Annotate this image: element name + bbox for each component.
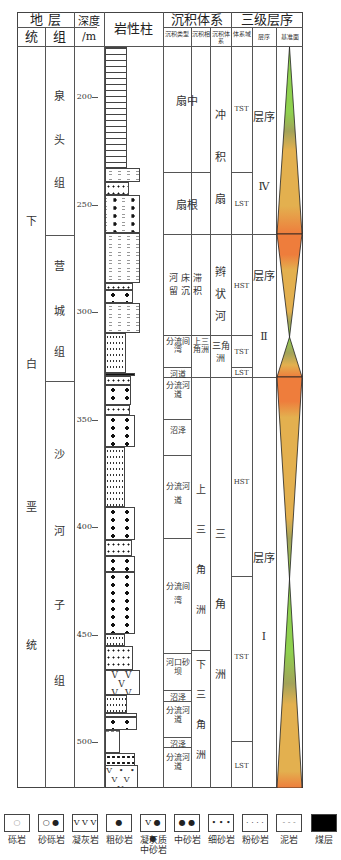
legend-coal-seam: 煤层 (308, 814, 340, 845)
litho-conglomerate (105, 233, 140, 283)
sequence-IV-label: 层序 (252, 100, 276, 136)
litho-coarse-sandstone (105, 290, 133, 303)
depth-label-350: 350 (66, 415, 92, 424)
facies-lower-delta: 下三角洲 (191, 650, 210, 770)
series-char-4: 统 (17, 636, 45, 652)
col-line-system (231, 12, 232, 788)
series-char-2: 白 (17, 355, 45, 371)
tract-divider (231, 741, 252, 742)
sequence-I-label: 层序 (252, 535, 276, 583)
tract-divider (231, 576, 252, 577)
system-delta: 三角洲 (210, 340, 231, 364)
legend-symbol-fine-sandstone: • • • (208, 814, 234, 832)
legend-tuffaceous-medium-sandstone: V ● ● 凝灰质中砂岩 (137, 814, 169, 855)
legend-fine-sandstone: • • • 细砂岩 (205, 814, 237, 845)
header-depth-unit: /m (74, 30, 104, 44)
legend-symbol-conglomerate: ○ (4, 814, 30, 832)
litho-coarse-sandstone (105, 556, 135, 572)
litho-fine-sandstone (105, 540, 132, 556)
facies-upper-delta: 上三角洲 (191, 470, 210, 630)
sed-type-swamp: 沼泽 (164, 738, 191, 749)
header-bottom-line (17, 46, 303, 47)
sed-type-fan-root: 扇根 (164, 196, 210, 212)
litho-conglomerate (105, 168, 140, 182)
legend-siltstone: · · · · 粉砂岩 (239, 814, 271, 845)
legend-conglomerate: ○ 砾岩 (1, 814, 33, 845)
legend-symbol-tuffaceous-medium-sandstone: V ● ● (140, 814, 166, 832)
sequence-II-label: 层序 (252, 265, 276, 289)
legend-mudstone: - - - 泥岩 (273, 814, 305, 845)
litho-siltstone (105, 333, 126, 373)
litho-fine-sandstone (105, 405, 130, 415)
system-alluvial-fan: 冲积扇 (210, 95, 231, 221)
sed-divider (163, 335, 210, 336)
sequence-II-numeral: Ⅱ (252, 330, 276, 343)
depth-label-200: 200 (66, 92, 92, 101)
sed-type-mouth-bar: 河口砂坝 (164, 658, 191, 676)
system-delta: 三角洲 (210, 500, 231, 710)
litho-fine-sandstone (105, 376, 131, 385)
tract-tst: TST (231, 348, 252, 356)
litho-fine-sandstone (105, 646, 133, 670)
legend-symbol-mudstone: - - - (276, 814, 302, 832)
litho-mudstone (105, 730, 120, 753)
litho-medium-sandstone (105, 47, 127, 168)
facies-upper-delta: 上三角洲 (191, 338, 210, 354)
tract-divider (231, 367, 252, 368)
legend-symbol-coarse-sandstone: ● (106, 814, 132, 832)
litho-siltstone (105, 695, 127, 713)
system-divider (210, 335, 231, 336)
header-formation: 组 (45, 30, 74, 44)
sed-divider (163, 455, 191, 456)
depth-tick (92, 527, 98, 528)
formation-1-char-2: 头 (45, 131, 74, 147)
litho-conglomerate (105, 303, 140, 333)
formation-3-char-3: 子 (45, 596, 74, 612)
depth-label-250: 250 (66, 200, 92, 209)
depth-tick (92, 420, 98, 421)
litho-fine-sandstone (105, 182, 129, 195)
litho-coarse-sandstone (105, 717, 137, 730)
litho-tuff: V V VV V V (105, 670, 140, 695)
tract-lst: LST (231, 200, 252, 208)
sed-divider (163, 419, 191, 420)
legend-sandy-conglomerate: ○ ● 砂砾岩 (35, 814, 67, 845)
sed-type-distributary-channel: 分流河道 (164, 381, 191, 399)
header-sequence-3rd: 三级层序 (231, 13, 303, 27)
header-sed-facies: 沉积相 (191, 30, 210, 37)
header-stratigraphy: 地 层 (17, 13, 74, 27)
header-series: 统 (17, 30, 45, 44)
litho-siltstone (105, 447, 125, 507)
sed-type-interdistributary-bay: 分流间湾 (164, 580, 191, 608)
header-depth: 深度 (74, 15, 104, 29)
base-level-curve (276, 47, 303, 788)
header-lithology: 岩性柱 (104, 22, 163, 36)
litho-siltstone (105, 634, 125, 646)
sed-divider (163, 653, 191, 654)
sed-type-fan-middle: 扇中 (164, 92, 210, 108)
sed-type-swamp: 沼泽 (164, 691, 191, 702)
header-base-level: 基准面 (276, 33, 303, 40)
tract-lst: LST (231, 369, 252, 377)
legend-symbol-siltstone: · · · · (242, 814, 268, 832)
legend-tuff: V V V 凝灰岩 (69, 814, 101, 845)
header-sequence: 层序 (252, 33, 276, 40)
col-line-tract (252, 27, 253, 788)
legend-medium-sandstone: ● ● 中砂岩 (171, 814, 203, 845)
litho-coarse-sandstone (105, 572, 135, 634)
header-divider-sed (163, 27, 303, 28)
depth-label-300: 300 (66, 307, 92, 316)
sed-divider (163, 538, 191, 539)
legend-symbol-medium-sandstone: ● ● (174, 814, 200, 832)
depth-label-400: 400 (66, 522, 92, 531)
legend-symbol-coal-seam (311, 814, 337, 832)
tract-hst: HST (231, 478, 252, 486)
formation-2-char-1: 营 (45, 257, 74, 273)
sed-type-channel: 河道 (164, 368, 191, 379)
depth-tick (92, 205, 98, 206)
legend-coarse-sandstone: ● 粗砂岩 (103, 814, 135, 845)
header-sedimentary-system: 沉积体系 (163, 13, 231, 27)
formation-3-char-4: 组 (45, 672, 74, 688)
legend-symbol-tuff: V V V (72, 814, 98, 832)
depth-tick (92, 742, 98, 743)
